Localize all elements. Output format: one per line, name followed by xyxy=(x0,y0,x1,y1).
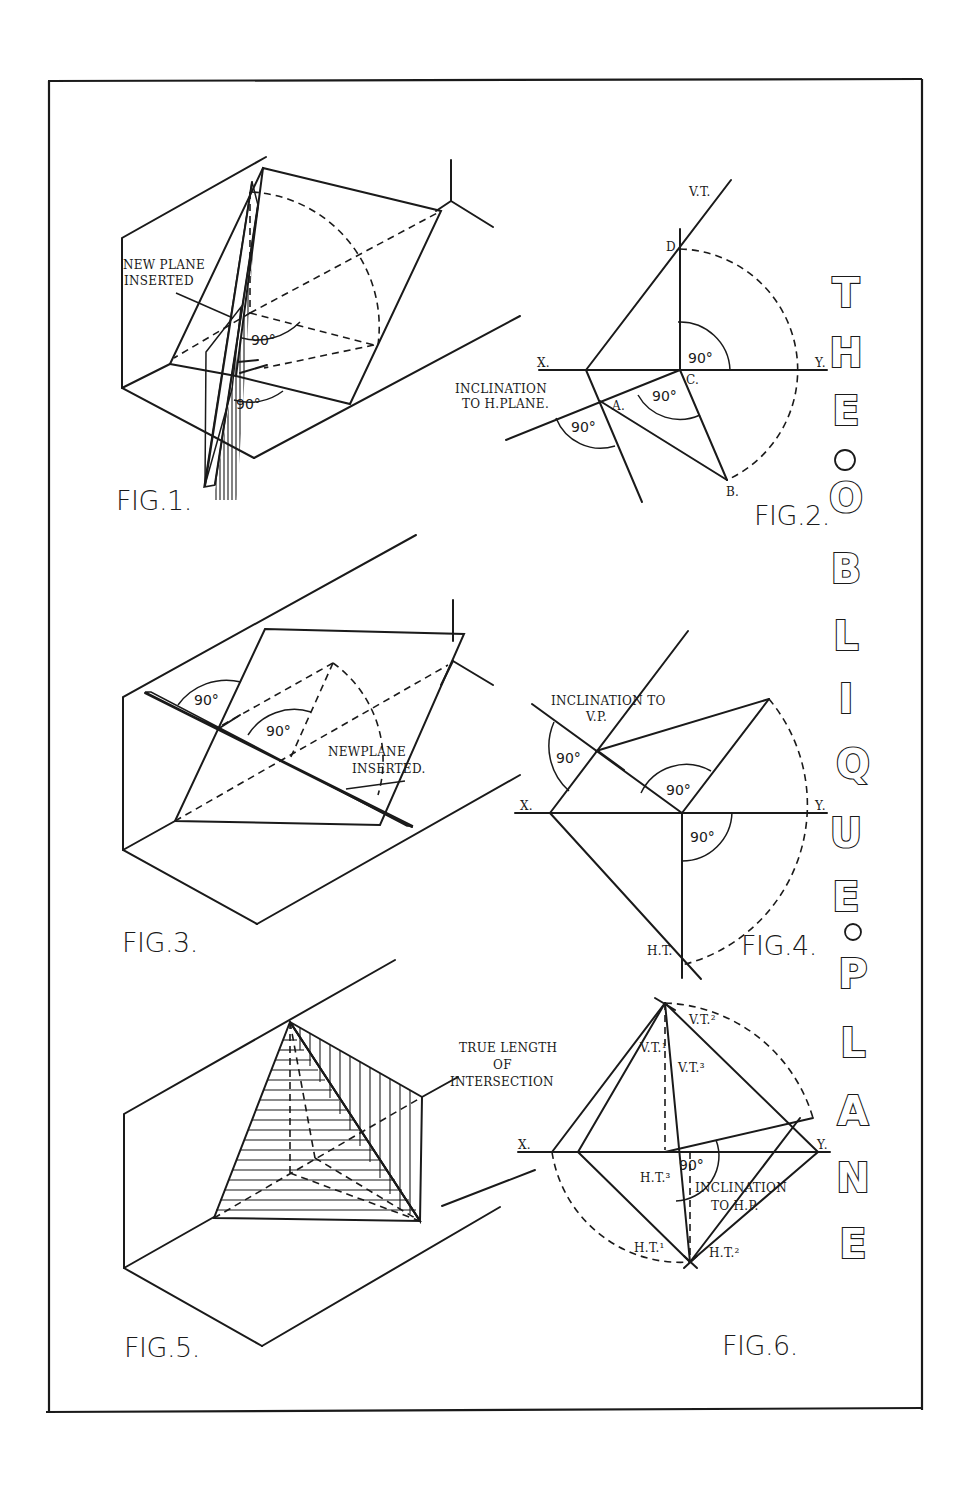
fig4-angle-left: 90° xyxy=(556,750,581,766)
figure-3: 90° 90° NEWPLANE INSERTED. FIG.3. xyxy=(122,535,520,958)
fig4-x-label: X. xyxy=(520,799,533,813)
fig4-inclination-line1: INCLINATION TO xyxy=(551,694,666,708)
title-letter: L xyxy=(840,1020,866,1066)
fig5-caption: FIG.5. xyxy=(124,1332,200,1363)
title-letter: B xyxy=(831,546,862,592)
title-letter: E xyxy=(832,874,859,920)
fig6-vt3-label: V.T.³ xyxy=(677,1061,705,1075)
fig6-tl-line1: TRUE LENGTH xyxy=(459,1041,557,1055)
fig2-angle-mid: 90° xyxy=(652,388,677,404)
fig4-ht-label: H.T. xyxy=(647,944,673,958)
fig6-vt2-label: V.T.² xyxy=(688,1013,716,1027)
title-letter: I xyxy=(839,676,854,722)
fig6-y-label: Y. xyxy=(816,1138,828,1152)
fig3-angle-b: 90° xyxy=(266,723,291,739)
fig6-x-label: X. xyxy=(518,1138,531,1152)
fig6-tl-line3: INTERSECTION xyxy=(450,1075,554,1089)
fig3-caption: FIG.3. xyxy=(122,927,198,958)
fig2-angle-top: 90° xyxy=(688,350,713,366)
fig2-inclination-line1: INCLINATION xyxy=(455,382,547,396)
title-letter: L xyxy=(833,613,859,659)
fig2-angle-low: 90° xyxy=(571,419,596,435)
fig6-inclination-line2: TO H.P. xyxy=(711,1199,759,1213)
fig2-a-label: A. xyxy=(611,399,625,413)
title-letter: E xyxy=(839,1221,866,1267)
figure-2: V.T. D. X. Y. C. A. B. INCLINATION TO H.… xyxy=(455,180,830,531)
fig1-angle-b: 90° xyxy=(236,396,261,412)
fig4-angle-low: 90° xyxy=(690,829,715,845)
fig3-angle-a: 90° xyxy=(194,692,219,708)
fig6-inclination-line1: INCLINATION xyxy=(695,1181,787,1195)
figure-4: INCLINATION TO V.P. X. Y. H.T. 90° 90° 9… xyxy=(515,631,827,979)
fig2-b-label: B. xyxy=(726,485,739,499)
figure-6: TRUE LENGTH OF INTERSECTION V.T.¹ V.T.² … xyxy=(442,998,830,1361)
fig2-caption: FIG.2. xyxy=(754,500,830,531)
fig2-inclination-line2: TO H.PLANE. xyxy=(462,397,549,411)
title-letter: Q xyxy=(836,741,870,787)
title-separator-dot xyxy=(845,924,861,940)
title-separator-dot xyxy=(835,450,855,470)
title-letter: U xyxy=(830,810,862,856)
fig6-ht2-label: H.T.² xyxy=(709,1246,740,1260)
fig6-ht1-label: H.T.¹ xyxy=(634,1241,665,1255)
fig3-note-line1: NEWPLANE xyxy=(328,745,406,759)
title-letter: P xyxy=(838,951,867,997)
fig6-ht3-label: H.T.³ xyxy=(640,1171,671,1185)
fig2-c-label: C. xyxy=(686,373,699,387)
fig1-note-line2: INSERTED xyxy=(124,274,194,288)
title-letter: E xyxy=(832,388,859,434)
title-letter: N xyxy=(836,1155,869,1201)
fig2-vt-label: V.T. xyxy=(688,185,711,199)
pyramid-hatched-faces xyxy=(214,1022,458,1221)
title-letter: H xyxy=(829,330,862,376)
fig4-inclination-line2: V.P. xyxy=(585,710,607,724)
figure-5: FIG.5. xyxy=(124,960,500,1363)
fig6-tl-line2: OF xyxy=(493,1058,512,1072)
fig6-angle: 90° xyxy=(679,1157,704,1173)
fig4-y-label: Y. xyxy=(814,799,826,813)
fig1-angle-a: 90° xyxy=(251,332,276,348)
oblique-plane-plate: NEW PLANE INSERTED 90° 90° FIG.1. V.T. D… xyxy=(0,0,972,1494)
fig6-caption: FIG.6. xyxy=(722,1330,798,1361)
title-letter: O xyxy=(829,475,863,521)
fig6-vt1-label: V.T.¹ xyxy=(639,1041,667,1055)
fig2-x-label: X. xyxy=(537,356,550,370)
fig1-note-line1: NEW PLANE xyxy=(123,258,205,272)
fig1-caption: FIG.1. xyxy=(116,485,192,516)
vertical-title: T H E O B L I Q U E P L A N E xyxy=(829,270,870,1267)
figure-1: NEW PLANE INSERTED 90° 90° FIG.1. xyxy=(116,157,520,516)
fig4-angle-mid: 90° xyxy=(666,782,691,798)
fig3-note-line2: INSERTED. xyxy=(352,762,426,776)
fig2-y-label: Y. xyxy=(814,356,826,370)
title-letter: T xyxy=(832,270,860,316)
fig4-caption: FIG.4. xyxy=(741,930,817,961)
title-letter: A xyxy=(838,1088,869,1134)
fig2-d-label: D. xyxy=(666,240,680,254)
